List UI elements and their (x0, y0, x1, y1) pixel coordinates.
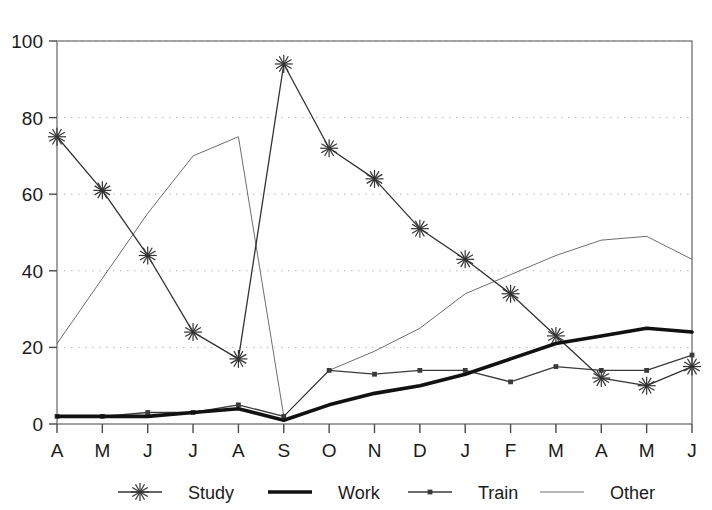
x-tick-label: M (94, 440, 110, 461)
x-tick-label: S (277, 440, 290, 461)
x-tick-label: J (687, 440, 697, 461)
x-tick-label: A (595, 440, 608, 461)
x-tick-label: O (322, 440, 337, 461)
legend-item-other[interactable]: Other (540, 483, 655, 503)
plot-frame (57, 41, 692, 424)
gridlines (57, 41, 692, 347)
series-study (48, 55, 701, 395)
y-tick-label: 80 (22, 108, 43, 129)
legend-item-study[interactable]: Study (118, 483, 234, 503)
legend-item-work[interactable]: Work (268, 483, 381, 503)
y-tick-label: 40 (22, 261, 43, 282)
x-tick-label: M (639, 440, 655, 461)
y-axis-ticks (49, 41, 57, 424)
y-tick-label: 100 (11, 31, 43, 52)
chart-figure: 020406080100 AMJJASONDJFMAMJ StudyWorkTr… (0, 0, 712, 510)
chart-canvas: 020406080100 AMJJASONDJFMAMJ StudyWorkTr… (0, 0, 712, 510)
series-train (55, 353, 695, 419)
legend-label: Work (338, 483, 381, 503)
y-axis-tick-labels: 020406080100 (11, 31, 43, 435)
legend-item-train[interactable]: Train (408, 483, 518, 503)
legend-label: Other (610, 483, 655, 503)
x-tick-label: F (505, 440, 517, 461)
legend-label: Train (478, 483, 518, 503)
x-tick-label: D (413, 440, 427, 461)
x-tick-label: N (368, 440, 382, 461)
legend-label: Study (188, 483, 234, 503)
y-tick-label: 60 (22, 184, 43, 205)
x-tick-label: J (143, 440, 153, 461)
x-tick-label: J (460, 440, 470, 461)
x-axis-ticks (57, 424, 692, 433)
x-tick-label: A (51, 440, 64, 461)
x-tick-label: M (548, 440, 564, 461)
y-tick-label: 0 (32, 414, 43, 435)
x-tick-label: J (188, 440, 198, 461)
x-tick-label: A (232, 440, 245, 461)
chart-legend: StudyWorkTrainOther (118, 483, 655, 503)
x-axis-tick-labels: AMJJASONDJFMAMJ (51, 440, 697, 461)
y-tick-label: 20 (22, 337, 43, 358)
